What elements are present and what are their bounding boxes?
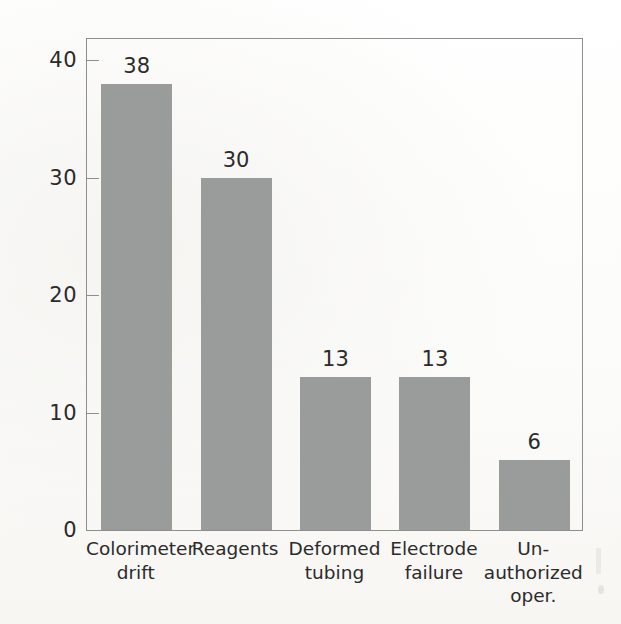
x-axis-category-label: Un- authorized oper. [484,537,583,608]
x-axis-category-label: Deformed tubing [285,537,384,584]
y-axis-tick-mark [87,295,99,296]
page-edge-artifact [598,585,604,594]
bar: 6 [499,460,570,530]
bar-value-label: 13 [322,347,349,371]
bar-value-label: 30 [223,148,250,172]
y-axis-tick-mark [87,413,99,414]
figure-canvas: Percent of downtime 010203040 383013136 … [0,0,621,624]
y-axis-tick-label: 0 [63,518,77,542]
bar: 38 [101,84,172,530]
x-axis-category-label: Reagents [185,537,284,561]
page-edge-artifact [596,548,601,574]
y-axis-tick-mark [87,60,99,61]
bar-value-label: 38 [123,54,150,78]
plot-area: 010203040 383013136 [86,38,583,531]
y-axis-tick-label: 20 [49,283,77,307]
y-axis-tick-label: 40 [49,48,77,72]
bar: 13 [399,377,470,530]
bar-value-label: 6 [528,430,541,454]
bar-value-label: 13 [422,347,449,371]
y-axis-tick-mark [87,530,99,531]
x-axis-category-label: Electrode failure [384,537,483,584]
y-axis-tick-label: 10 [49,401,77,425]
y-axis-tick-label: 30 [49,166,77,190]
bar: 30 [201,178,272,530]
bar: 13 [300,377,371,530]
y-axis-tick-mark [87,178,99,179]
x-axis-category-label: Colorimeter drift [86,537,185,584]
